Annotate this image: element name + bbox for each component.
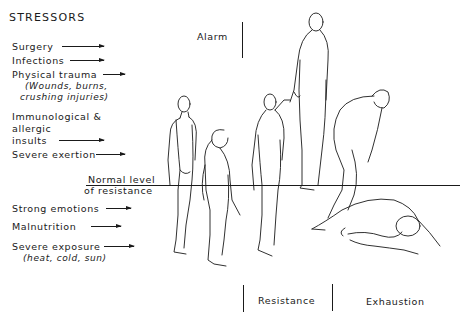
slumped-alarm-figure xyxy=(202,130,240,266)
standing-normal-figure xyxy=(168,96,196,254)
figures-illustration xyxy=(0,0,470,319)
recovering-figure xyxy=(252,94,290,256)
collapsed-exhaustion-figure xyxy=(312,199,440,254)
tall-resistance-figure xyxy=(290,13,328,190)
